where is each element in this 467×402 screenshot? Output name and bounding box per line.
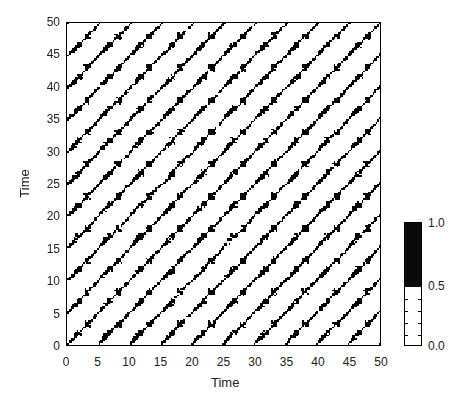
x-axis-title: Time <box>211 375 239 390</box>
recurrence-heatmap <box>67 23 380 345</box>
y-tick-label: 25 <box>36 178 60 190</box>
colorbar-tick <box>405 335 408 336</box>
y-tick-label: 45 <box>36 48 60 60</box>
x-tick-label: 15 <box>149 356 173 368</box>
x-tick-label: 0 <box>54 356 78 368</box>
colorbar-tick <box>418 299 421 300</box>
y-tick-label: 30 <box>36 146 60 158</box>
colorbar-tick <box>418 323 421 324</box>
y-tick-label: 0 <box>36 340 60 352</box>
y-tick-label: 50 <box>36 16 60 28</box>
colorbar <box>404 222 422 346</box>
y-tick-label: 20 <box>36 210 60 222</box>
colorbar-label-max: 1.0 <box>428 217 445 229</box>
x-tick-label: 40 <box>306 356 330 368</box>
x-tick-label: 30 <box>243 356 267 368</box>
x-tick-label: 20 <box>180 356 204 368</box>
y-axis-title: Time <box>17 169 32 197</box>
colorbar-label-min: 0.0 <box>428 340 445 352</box>
colorbar-tick <box>418 311 421 312</box>
x-tick-label: 35 <box>275 356 299 368</box>
x-tick-label: 50 <box>369 356 393 368</box>
colorbar-tick <box>405 299 408 300</box>
x-tick-label: 10 <box>117 356 141 368</box>
y-tick-label: 5 <box>36 308 60 320</box>
y-tick-label: 15 <box>36 243 60 255</box>
y-tick-label: 40 <box>36 81 60 93</box>
colorbar-black-segment <box>405 223 421 287</box>
colorbar-tick <box>405 311 408 312</box>
x-tick-label: 45 <box>338 356 362 368</box>
colorbar-tick <box>418 335 421 336</box>
plot-area <box>66 22 381 346</box>
y-tick-label: 10 <box>36 275 60 287</box>
colorbar-label-mid: 0.5 <box>428 280 445 292</box>
colorbar-tick <box>405 323 408 324</box>
y-tick-label: 35 <box>36 113 60 125</box>
x-tick-label: 25 <box>212 356 236 368</box>
x-tick-label: 5 <box>86 356 110 368</box>
